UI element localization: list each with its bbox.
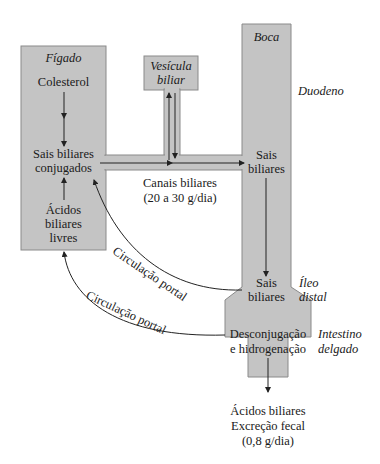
ileum-label-2: distal <box>299 290 327 305</box>
bile-ducts-label-2: (20 a 30 g/dia) <box>130 191 230 206</box>
free-acids-label-1: Ácidos <box>21 203 106 218</box>
cholesterol-label: Colesterol <box>21 75 106 90</box>
gallbladder-stem <box>164 89 180 157</box>
process-label-2: e hidrogenação <box>225 342 311 357</box>
conjugated-salts-label-1: Sais biliares <box>21 147 106 162</box>
duodenum-label: Duodeno <box>298 84 358 99</box>
duodenum-salts-label-1: Sais <box>242 148 291 163</box>
gallbladder-label-2: biliar <box>144 73 198 88</box>
excretion-label-3: (0,8 g/dia) <box>208 434 328 449</box>
liver-title: Fígado <box>21 51 106 66</box>
mouth-label: Boca <box>242 30 291 45</box>
conjugated-salts-label-2: conjugados <box>21 161 106 176</box>
excretion-label-2: Excreção fecal <box>208 419 328 434</box>
ileum-salts-label-2: biliares <box>242 290 291 305</box>
ileum-label-1: Íleo <box>299 276 318 291</box>
ileum-salts-label-1: Sais <box>242 276 291 291</box>
small-intestine-label-1: Intestino <box>318 327 362 342</box>
free-acids-label-3: livres <box>21 231 106 246</box>
bile-ducts-label-1: Canais biliares <box>130 176 230 191</box>
free-acids-label-2: biliares <box>21 217 106 232</box>
duodenum-salts-label-2: biliares <box>242 162 291 177</box>
gallbladder-label-1: Vesícula <box>144 59 198 74</box>
process-label-1: Desconjugação <box>225 327 311 342</box>
intestine-column <box>225 24 311 377</box>
excretion-label-1: Ácidos biliares <box>208 404 328 419</box>
small-intestine-label-2: delgado <box>318 342 358 357</box>
